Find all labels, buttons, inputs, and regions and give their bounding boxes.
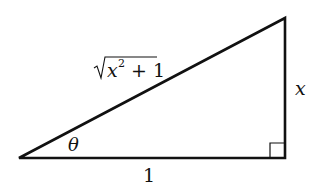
right-triangle-diagram: x 2 + 1 θ x 1 [0,0,314,190]
adjacent-side-label: 1 [143,164,155,186]
hypotenuse-exponent: 2 [118,57,125,70]
opposite-side-label: x [295,77,306,99]
hypotenuse-var: x [107,59,118,81]
hypotenuse-label: x 2 + 1 [94,57,165,81]
hypotenuse-tail: + 1 [125,59,165,81]
angle-theta-label: θ [68,134,79,155]
triangle [19,18,285,158]
right-angle-marker [270,143,285,158]
